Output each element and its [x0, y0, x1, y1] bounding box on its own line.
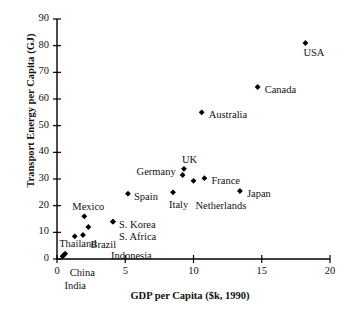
data-point-label: Italy: [169, 199, 188, 210]
data-point: [303, 40, 309, 46]
x-axis-title: GDP per Capita ($k, 1990): [40, 290, 340, 301]
data-point: [110, 219, 116, 225]
data-point-label: Mexico: [72, 201, 104, 212]
y-tick-label: 90: [11, 12, 49, 23]
y-tick-label: 20: [11, 199, 49, 210]
data-point-label: Thailand: [59, 238, 96, 249]
data-point-label: China: [70, 267, 95, 278]
data-point-label: India: [64, 280, 86, 291]
data-point: [255, 84, 261, 90]
data-point: [202, 175, 208, 181]
data-point: [170, 189, 176, 195]
y-tick-label: 80: [11, 39, 49, 50]
data-point-label: S. Africa: [119, 231, 156, 242]
data-point-label: Spain: [134, 191, 158, 202]
x-tick-label: 5: [105, 265, 145, 276]
data-point: [181, 166, 187, 172]
y-tick-label: 50: [11, 119, 49, 130]
y-tick-label: 70: [11, 65, 49, 76]
x-tick-label: 10: [174, 265, 214, 276]
data-point-label: S. Korea: [119, 219, 156, 230]
data-point-label: Australia: [209, 109, 248, 120]
data-markers: [60, 40, 309, 259]
data-point: [191, 178, 197, 184]
y-tick-label: 40: [11, 145, 49, 156]
x-tick-label: 20: [310, 265, 347, 276]
data-point: [180, 172, 186, 178]
data-point-label: Indonesia: [111, 250, 152, 261]
data-point-label: Germany: [137, 166, 176, 177]
data-point-label: Canada: [265, 84, 297, 95]
data-point: [237, 188, 243, 194]
data-point-label: USA: [303, 47, 324, 58]
data-point: [199, 109, 205, 115]
data-point-label: Japan: [247, 188, 271, 199]
data-point: [125, 191, 131, 197]
data-point-label: UK: [182, 154, 197, 165]
data-point-label: Netherlands: [196, 200, 247, 211]
y-tick-label: 30: [11, 172, 49, 183]
y-tick-label: 0: [11, 252, 49, 263]
scatter-chart: Transport Energy per Capita (GJ) GDP per…: [0, 0, 347, 311]
data-point: [81, 213, 87, 219]
x-tick-label: 15: [242, 265, 282, 276]
y-tick-label: 10: [11, 225, 49, 236]
y-tick-label: 60: [11, 92, 49, 103]
tick-marks: [53, 19, 330, 263]
axis-lines: [57, 19, 330, 259]
data-point-label: France: [211, 175, 240, 186]
data-point: [85, 224, 91, 230]
